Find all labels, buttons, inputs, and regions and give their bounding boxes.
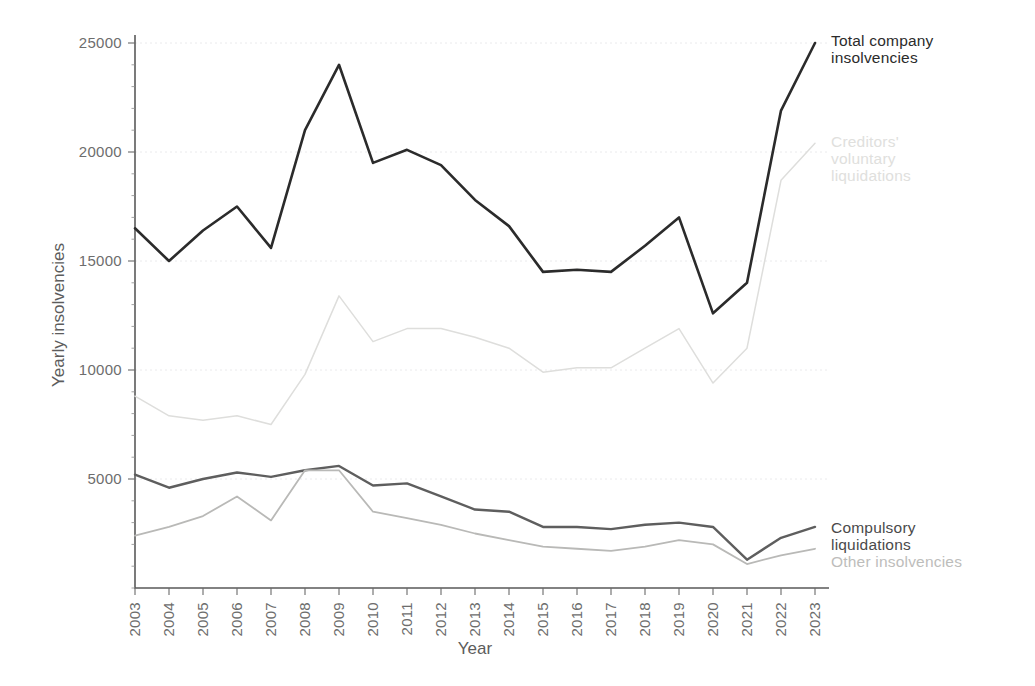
x-tick-label: 2021 (738, 602, 755, 637)
x-tick-label: 2017 (602, 602, 619, 637)
x-tick-label: 2012 (432, 602, 449, 637)
x-tick-label: 2014 (500, 602, 517, 637)
x-tick-label: 2010 (364, 602, 381, 637)
x-tick-label: 2007 (262, 602, 279, 637)
series-label-0: Total company insolvencies (831, 32, 934, 66)
x-tick-label: 2006 (228, 602, 245, 637)
y-tick-label: 5000 (87, 470, 122, 487)
x-tick-label: 2003 (126, 602, 143, 637)
x-tick-label: 2008 (296, 602, 313, 637)
axis-ticks (128, 43, 815, 595)
x-axis-title: Year (458, 639, 493, 658)
y-axis-title: Yearly insolvencies (49, 243, 68, 387)
chart-canvas: 500010000150002000025000 200320042005200… (0, 0, 1035, 686)
y-tick-label: 15000 (79, 252, 122, 269)
series-line-0 (135, 43, 815, 313)
x-axis-tick-labels: 2003200420052006200720082009201020112012… (126, 602, 823, 637)
axes (135, 35, 829, 588)
x-tick-label: 2022 (772, 602, 789, 637)
series-label-2: Compulsory liquidations (831, 519, 916, 553)
y-tick-label: 10000 (79, 361, 122, 378)
y-tick-label: 20000 (79, 143, 122, 160)
x-tick-label: 2005 (194, 602, 211, 637)
series-label-1: Creditors' voluntary liquidations (831, 133, 911, 184)
axis-lines (135, 35, 829, 588)
x-tick-label: 2015 (534, 602, 551, 637)
x-tick-label: 2011 (398, 602, 415, 635)
x-tick-label: 2004 (160, 602, 177, 637)
gridlines (135, 43, 829, 479)
y-tick-label: 25000 (79, 34, 122, 51)
series-line-3 (135, 470, 815, 564)
x-tick-label: 2009 (330, 602, 347, 637)
insolvency-line-chart: 500010000150002000025000 200320042005200… (0, 0, 1035, 686)
x-tick-label: 2013 (466, 602, 483, 637)
x-tick-label: 2019 (670, 602, 687, 637)
series-line-2 (135, 466, 815, 560)
x-tick-label: 2018 (636, 602, 653, 637)
x-tick-label: 2023 (806, 602, 823, 637)
series-label-3: Other insolvencies (831, 553, 962, 570)
series-lines (135, 43, 815, 564)
x-tick-label: 2020 (704, 602, 721, 637)
series-line-1 (135, 143, 815, 424)
x-tick-label: 2016 (568, 602, 585, 637)
y-axis-tick-labels: 500010000150002000025000 (79, 34, 122, 487)
